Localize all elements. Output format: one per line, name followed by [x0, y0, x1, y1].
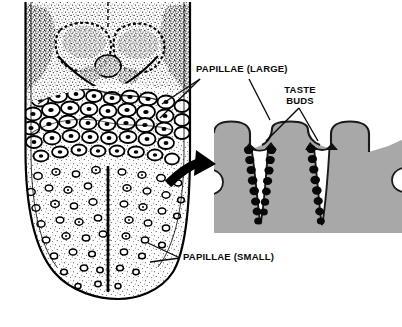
label-taste-buds-line1: TASTE [283, 85, 317, 96]
tongue-papillae-figure: PAPILLAE (LARGE) TASTE BUDS PAPILLAE (SM… [0, 0, 402, 327]
leader-papillae-large [160, 79, 200, 118]
annotation-layer [0, 0, 402, 327]
magnify-arrow-icon [168, 150, 216, 184]
label-taste-buds-line2: BUDS [283, 96, 317, 107]
leader-papillae-large-to-section [249, 79, 270, 120]
label-papillae-large: PAPILLAE (LARGE) [196, 64, 288, 75]
label-taste-buds: TASTE BUDS [283, 85, 317, 106]
leader-papillae-small [148, 243, 180, 262]
leader-taste-buds [266, 108, 318, 141]
label-papillae-small: PAPILLAE (SMALL) [183, 252, 274, 263]
